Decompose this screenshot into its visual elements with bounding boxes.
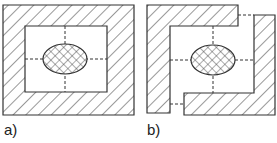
panel-b — [147, 5, 275, 115]
cross-hatched-core-fill — [191, 45, 235, 75]
panel-label-b: b) — [147, 121, 160, 138]
panel-label-a: a) — [4, 121, 17, 138]
diagram-canvas — [0, 0, 277, 143]
cross-hatched-core-fill — [43, 44, 87, 74]
panel-a — [3, 5, 134, 115]
